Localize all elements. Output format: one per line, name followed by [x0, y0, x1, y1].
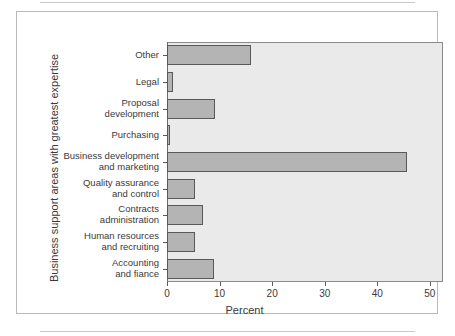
- x-axis-tick-label: 20: [257, 288, 287, 299]
- bar-row: [167, 179, 443, 199]
- x-axis-tick: [377, 282, 378, 286]
- figure-frame: Business support areas with greatest exp…: [16, 11, 438, 314]
- y-axis-tick: [163, 55, 167, 56]
- x-axis-tick: [167, 282, 168, 286]
- bar-row: [167, 45, 443, 65]
- bar: [167, 99, 215, 119]
- bar-row: [167, 125, 443, 145]
- y-axis-tick: [163, 162, 167, 163]
- x-axis-tick-label: 40: [362, 288, 392, 299]
- y-axis-tick: [163, 215, 167, 216]
- top-divider-rule: [40, 2, 415, 3]
- bar-row: [167, 99, 443, 119]
- bar: [167, 72, 173, 92]
- bar: [167, 125, 170, 145]
- y-axis-tick: [163, 269, 167, 270]
- bottom-divider-rule: [40, 331, 415, 332]
- bar-row: [167, 72, 443, 92]
- y-axis-tick: [163, 135, 167, 136]
- bar: [167, 205, 203, 225]
- x-axis-tick: [430, 282, 431, 286]
- y-axis-tick: [163, 82, 167, 83]
- x-axis-tick-label: 30: [310, 288, 340, 299]
- bar: [167, 45, 251, 65]
- y-axis-tick-label: Contracts administration: [49, 203, 159, 225]
- x-axis-title: Percent: [17, 304, 455, 316]
- x-axis-tick-label: 0: [152, 288, 182, 299]
- bar-row: [167, 259, 443, 279]
- y-axis-tick-label: Legal: [49, 76, 159, 87]
- y-axis-tick-label: Other: [49, 49, 159, 60]
- y-axis-tick-label: Proposal development: [49, 97, 159, 119]
- bar-row: [167, 205, 443, 225]
- bar: [167, 232, 195, 252]
- y-axis-tick-label: Quality assurance and control: [49, 177, 159, 199]
- bar: [167, 152, 407, 172]
- bar: [167, 259, 214, 279]
- x-axis-tick: [325, 282, 326, 286]
- y-axis-tick-label: Accounting and fiance: [49, 257, 159, 279]
- y-axis-tick: [163, 189, 167, 190]
- y-axis-tick: [163, 109, 167, 110]
- x-axis-tick: [220, 282, 221, 286]
- y-axis-tick: [163, 242, 167, 243]
- x-axis-tick-label: 10: [205, 288, 235, 299]
- bar: [167, 179, 195, 199]
- bar-row: [167, 152, 443, 172]
- y-axis-tick-label: Purchasing: [49, 129, 159, 140]
- y-axis-tick-label: Human resources and recruiting: [49, 230, 159, 252]
- x-axis-tick: [272, 282, 273, 286]
- bar-row: [167, 232, 443, 252]
- x-axis-tick-label: 50: [415, 288, 445, 299]
- y-axis-tick-label: Business development and marketing: [49, 150, 159, 172]
